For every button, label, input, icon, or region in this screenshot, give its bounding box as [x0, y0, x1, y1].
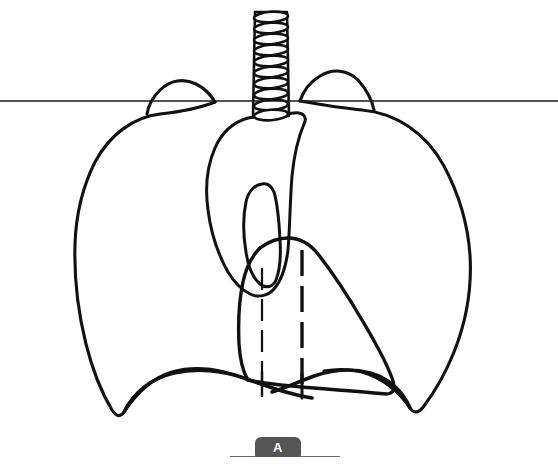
anatomy-figure: A — [0, 0, 558, 468]
mediastinum-group — [207, 113, 306, 296]
right-lung-group — [75, 81, 224, 416]
right-diaphragm-dome — [124, 370, 312, 412]
anatomy-illustration — [0, 0, 558, 468]
right-lung-apex-curve — [147, 81, 215, 114]
trachea-group — [253, 11, 289, 122]
panel-label-a: A — [255, 437, 301, 457]
